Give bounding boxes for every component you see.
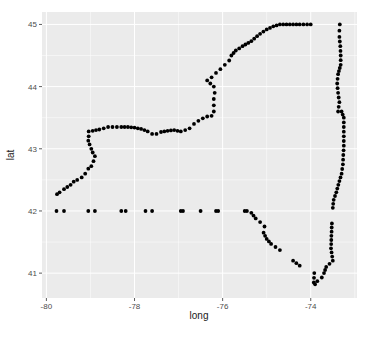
data-point — [139, 127, 143, 131]
data-point — [55, 209, 59, 213]
data-point — [275, 24, 279, 28]
data-point — [339, 54, 343, 58]
x-tick-label: -76 — [217, 302, 229, 311]
data-point — [331, 259, 335, 263]
data-point — [210, 75, 214, 79]
data-point — [69, 183, 73, 187]
data-point — [335, 82, 339, 86]
data-point — [119, 125, 123, 129]
x-tick-label: -80 — [41, 302, 53, 311]
data-point — [328, 262, 332, 266]
data-point — [249, 211, 253, 215]
data-point — [119, 209, 123, 213]
data-point — [205, 115, 209, 119]
data-point — [93, 209, 97, 213]
data-point — [214, 209, 218, 213]
data-point — [159, 130, 163, 134]
data-point — [136, 126, 140, 130]
data-point — [309, 23, 313, 27]
data-point — [212, 103, 216, 107]
data-point — [89, 147, 93, 151]
data-point — [97, 128, 101, 132]
data-point — [278, 248, 282, 252]
data-point — [335, 187, 339, 191]
data-point — [252, 37, 256, 41]
data-point — [337, 105, 341, 109]
data-point — [210, 114, 214, 118]
y-axis: 4142434445 — [28, 20, 42, 278]
data-point — [201, 116, 205, 120]
data-point — [265, 28, 269, 32]
data-point — [133, 126, 137, 130]
data-point — [192, 122, 196, 126]
data-point — [342, 139, 346, 143]
data-point — [129, 125, 133, 129]
data-point — [144, 209, 148, 213]
data-point — [65, 185, 69, 189]
data-point — [258, 220, 262, 224]
data-point — [126, 125, 130, 129]
data-point — [91, 129, 95, 133]
data-point — [341, 153, 345, 157]
data-point — [338, 29, 342, 33]
data-point — [87, 134, 91, 138]
data-point — [291, 259, 295, 263]
data-point — [212, 97, 216, 101]
data-point — [288, 23, 292, 27]
data-point — [179, 209, 183, 213]
data-point — [88, 143, 92, 147]
data-point — [281, 23, 285, 27]
data-point — [320, 276, 324, 280]
data-point — [330, 222, 334, 226]
data-point — [333, 194, 337, 198]
data-point — [336, 77, 340, 81]
x-axis-title: long — [190, 310, 209, 321]
data-point — [342, 134, 346, 138]
data-point — [330, 255, 334, 259]
data-point — [212, 110, 216, 114]
data-point — [337, 96, 341, 100]
data-point — [62, 209, 66, 213]
y-tick-label: 44 — [28, 83, 37, 92]
data-point — [338, 23, 342, 27]
data-point — [342, 130, 346, 134]
data-point — [278, 23, 282, 27]
data-point — [339, 49, 343, 53]
data-point — [330, 251, 334, 255]
y-tick-label: 43 — [28, 145, 37, 154]
data-point — [223, 63, 227, 67]
data-point — [340, 172, 344, 176]
data-point — [255, 34, 259, 38]
data-point — [176, 129, 180, 133]
data-point — [234, 49, 238, 53]
x-axis: -80-78-76-74 — [41, 298, 317, 311]
data-point — [243, 209, 247, 213]
data-point — [268, 26, 272, 30]
data-point — [237, 47, 241, 51]
data-point — [291, 23, 295, 27]
data-point — [338, 35, 342, 39]
y-tick-label: 45 — [28, 20, 37, 29]
data-point — [155, 132, 159, 136]
data-point — [188, 126, 192, 130]
data-point — [332, 198, 336, 202]
data-point — [208, 82, 212, 86]
data-point — [342, 144, 346, 148]
data-point — [162, 130, 166, 134]
data-point — [123, 125, 127, 129]
data-point — [329, 246, 333, 250]
data-point — [338, 179, 342, 183]
data-point — [169, 129, 173, 133]
data-point — [197, 119, 201, 123]
data-point — [146, 130, 150, 134]
data-point — [336, 110, 340, 114]
data-point — [115, 125, 119, 129]
data-point — [58, 190, 62, 194]
data-point — [336, 72, 340, 76]
data-point — [62, 187, 66, 191]
data-point — [249, 39, 253, 43]
data-point — [336, 86, 340, 90]
data-point — [331, 202, 335, 206]
data-point — [106, 125, 110, 129]
data-point — [285, 23, 289, 27]
